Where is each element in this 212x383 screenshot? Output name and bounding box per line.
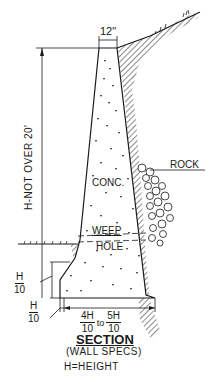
caption-title: SECTION: [76, 333, 134, 346]
caption-subtitle: (WALL SPECS): [66, 347, 142, 357]
toe-width-fraction: H 10: [28, 301, 39, 324]
concrete-wall: [60, 48, 155, 298]
concrete-label: CONC.: [92, 178, 124, 188]
caption-note: H=HEIGHT: [64, 362, 119, 372]
rock-label: ROCK: [170, 160, 199, 170]
weep-label: WEEP: [92, 226, 121, 236]
height-label: H-NOT OVER 20': [24, 125, 34, 210]
top-width-label: 12": [100, 26, 116, 37]
toe-height-fraction: H 10: [14, 272, 25, 295]
hole-label: HOLE: [96, 242, 123, 252]
base-width-fraction: 4H 10 to 5H 10: [80, 311, 121, 334]
